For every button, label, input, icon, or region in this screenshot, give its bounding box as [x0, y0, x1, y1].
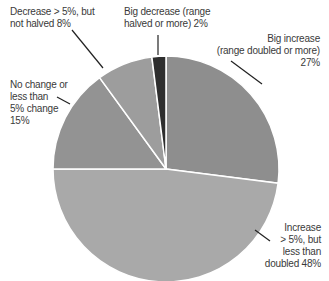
label-decrease: Decrease > 5%, but not halved 8% [10, 6, 95, 30]
label-line: not halved 8% [10, 18, 95, 30]
label-line: halved or more) 2% [124, 18, 210, 30]
label-line: less than [10, 91, 68, 103]
pie-slice [166, 56, 279, 183]
label-line: > 5%, but [265, 234, 321, 246]
label-big-decrease: Big decrease (range halved or more) 2% [124, 6, 210, 30]
label-line: Big decrease (range [124, 6, 210, 18]
label-line: Increase [265, 222, 321, 234]
label-line: No change or [10, 79, 68, 91]
label-line: 27% [217, 57, 320, 69]
label-line: Big increase [217, 33, 320, 45]
label-line: 5% change [10, 103, 68, 115]
leader-line-decrease [72, 30, 103, 68]
pie-slice [53, 169, 278, 281]
label-line: doubled 48% [265, 258, 321, 270]
label-line: (range doubled or more) [217, 45, 320, 57]
label-increase: Increase > 5%, but less than doubled 48% [265, 222, 321, 270]
label-big-increase: Big increase (range doubled or more) 27% [217, 33, 320, 69]
label-no-change: No change or less than 5% change 15% [10, 79, 68, 127]
label-line: Decrease > 5%, but [10, 6, 95, 18]
label-line: less than [265, 246, 321, 258]
label-line: 15% [10, 115, 68, 127]
